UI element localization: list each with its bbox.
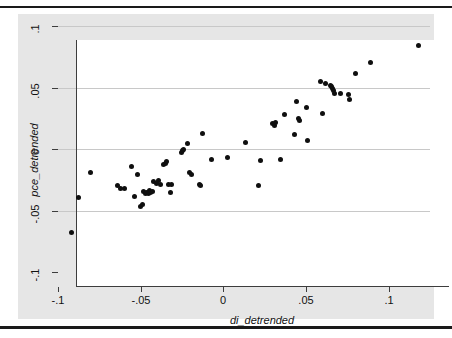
y-tick-mark	[52, 211, 58, 212]
x-tick-label: .05	[281, 294, 331, 306]
y-axis-line	[76, 40, 77, 287]
plot-panel	[76, 40, 448, 286]
y-tick-mark	[52, 26, 58, 27]
y-tick-mark	[52, 149, 58, 150]
scatter-point	[225, 155, 230, 160]
scatter-point	[150, 189, 155, 194]
y-tick-mark	[52, 88, 58, 89]
gridline-y	[58, 26, 430, 27]
y-axis-title: pce_detrended	[28, 100, 40, 220]
x-tick-mark	[306, 287, 307, 292]
scatter-point	[368, 60, 373, 65]
y-tick-label: .05	[18, 81, 52, 95]
scatter-point	[273, 120, 278, 125]
scatter-point	[258, 158, 263, 163]
x-tick-label: .1	[364, 294, 414, 306]
scatter-point	[129, 164, 134, 169]
scatter-point	[320, 111, 325, 116]
gridline-y	[58, 211, 430, 212]
x-tick-label: -.1	[33, 294, 83, 306]
scatter-point	[347, 97, 352, 102]
x-tick-label: 0	[198, 294, 248, 306]
y-tick-mark	[52, 272, 58, 273]
scatter-point	[158, 182, 163, 187]
x-tick-mark	[58, 287, 59, 292]
scatter-point	[169, 182, 174, 187]
gridline-y	[58, 149, 430, 150]
x-tick-label: -.05	[116, 294, 166, 306]
figure-top-rule	[0, 6, 452, 8]
scatter-point	[294, 99, 299, 104]
scatter-point	[168, 190, 173, 195]
scatter-point	[297, 118, 302, 123]
scatter-point	[200, 131, 205, 136]
y-tick-label-text: .1	[29, 24, 41, 33]
x-axis-title: di_detrended	[76, 314, 448, 326]
y-tick-label-text: -.1	[29, 269, 41, 282]
figure-page: -.1-.050.05.1 -.1-.050.05.1 di_detrended…	[0, 0, 452, 338]
scatter-point	[332, 91, 337, 96]
x-tick-mark	[223, 287, 224, 292]
y-tick-label-text: .05	[29, 83, 41, 98]
scatter-point	[185, 141, 190, 146]
x-axis-line	[76, 286, 449, 287]
figure-bottom-rule	[0, 326, 452, 329]
x-tick-mark	[389, 287, 390, 292]
x-tick-mark	[141, 287, 142, 292]
y-tick-label: .1	[18, 19, 52, 33]
graph-region: -.1-.050.05.1 -.1-.050.05.1 di_detrended…	[18, 14, 434, 319]
scatter-point	[304, 105, 309, 110]
scatter-point	[135, 172, 140, 177]
scatter-point	[69, 230, 74, 235]
gridline-y	[58, 88, 430, 89]
scatter-point	[318, 79, 323, 84]
scatter-point	[292, 132, 297, 137]
scatter-point	[189, 172, 194, 177]
y-tick-label: -.1	[18, 265, 52, 279]
